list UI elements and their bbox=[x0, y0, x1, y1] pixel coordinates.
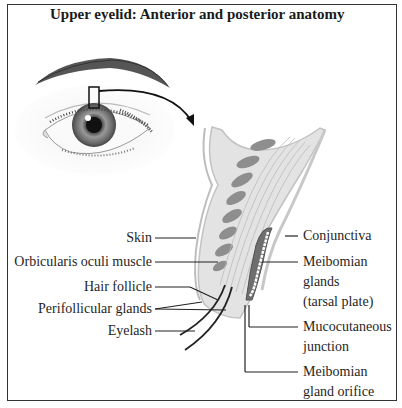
label-hair-follicle: Hair follicle bbox=[84, 279, 152, 295]
label-mucocutaneous-line1: Mucocutaneous bbox=[303, 319, 392, 335]
label-meibomian-glands-line1: Meibomian bbox=[303, 254, 368, 270]
label-eyelash: Eyelash bbox=[108, 323, 152, 339]
eye-icon bbox=[15, 58, 175, 175]
label-gland-orifice-line1: Meibomian bbox=[303, 364, 368, 380]
label-gland-orifice-line2: gland orifice bbox=[303, 384, 374, 400]
label-skin: Skin bbox=[126, 230, 152, 246]
label-conjunctiva: Conjunctiva bbox=[303, 228, 371, 244]
label-orbicularis-oculi-muscle: Orbicularis oculi muscle bbox=[14, 254, 152, 270]
label-meibomian-glands-line3: (tarsal plate) bbox=[303, 294, 373, 310]
label-meibomian-glands-line2: glands bbox=[303, 274, 340, 290]
label-perifollicular-glands: Perifollicular glands bbox=[38, 301, 152, 317]
label-mucocutaneous-line2: junction bbox=[303, 339, 349, 355]
